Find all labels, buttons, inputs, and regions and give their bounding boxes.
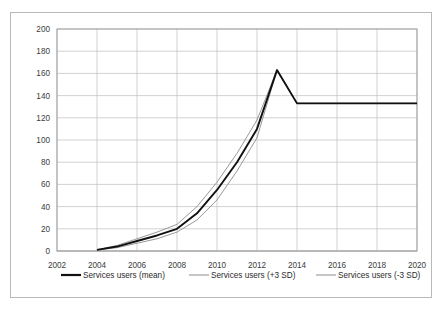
x-axis-tick-label: 2016	[328, 261, 347, 270]
legend-label: Services users (+3 SD)	[211, 271, 296, 280]
x-axis-tick-label: 2010	[208, 261, 227, 270]
y-axis-tick-label: 160	[36, 69, 50, 78]
x-tick-labels: 2002200420062008201020122014201620182020	[48, 261, 427, 270]
x-axis-tick-label: 2004	[88, 261, 107, 270]
y-axis-tick-label: 120	[36, 114, 50, 123]
y-axis-tick-label: 180	[36, 47, 50, 56]
y-axis-tick-label: 40	[41, 203, 51, 212]
y-axis-tick-label: 140	[36, 92, 50, 101]
legend-label: Services users (-3 SD)	[338, 271, 421, 280]
y-axis-tick-label: 100	[36, 136, 50, 145]
y-axis-tick-label: 80	[41, 158, 51, 167]
y-axis-tick-label: 200	[36, 25, 50, 34]
chart-legend: Services users (mean)Services users (+3 …	[61, 271, 421, 280]
x-axis-tick-label: 2020	[408, 261, 427, 270]
chart-figure: 020406080100120140160180200 200220042006…	[10, 12, 432, 298]
y-axis-tick-label: 0	[45, 247, 50, 256]
gridlines-horizontal	[57, 29, 417, 251]
x-axis-tick-label: 2018	[368, 261, 387, 270]
legend-label: Services users (mean)	[83, 271, 165, 280]
x-axis-tick-label: 2012	[248, 261, 267, 270]
x-axis-tick-label: 2014	[288, 261, 307, 270]
x-axis-tick-label: 2008	[168, 261, 187, 270]
y-axis-tick-label: 60	[41, 180, 51, 189]
x-axis-tick-label: 2006	[128, 261, 147, 270]
x-axis-tick-label: 2002	[48, 261, 67, 270]
chart-canvas: 020406080100120140160180200 200220042006…	[11, 13, 431, 297]
y-axis-tick-label: 20	[41, 225, 51, 234]
y-tick-labels: 020406080100120140160180200	[36, 25, 50, 256]
